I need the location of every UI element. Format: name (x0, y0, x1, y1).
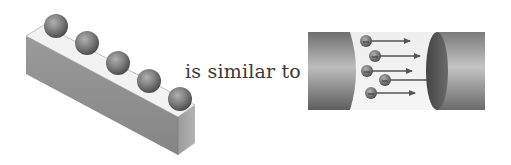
bead-2 (75, 31, 99, 55)
charge-5 (365, 87, 377, 99)
left-cylinder (308, 32, 356, 110)
bar-with-beads-figure (26, 14, 195, 155)
connector-text: is similar to (185, 60, 301, 82)
analogy-diagram (0, 0, 511, 165)
bead-3 (106, 51, 130, 75)
conductor-current-figure (308, 32, 485, 110)
bead-4 (137, 69, 161, 93)
charge-2 (369, 50, 381, 62)
right-cylinder-cap (426, 32, 448, 110)
bead-1 (44, 14, 68, 38)
charge-4 (379, 74, 391, 86)
charge-1 (360, 35, 372, 47)
charge-3 (361, 65, 373, 77)
bead-5 (168, 87, 192, 111)
